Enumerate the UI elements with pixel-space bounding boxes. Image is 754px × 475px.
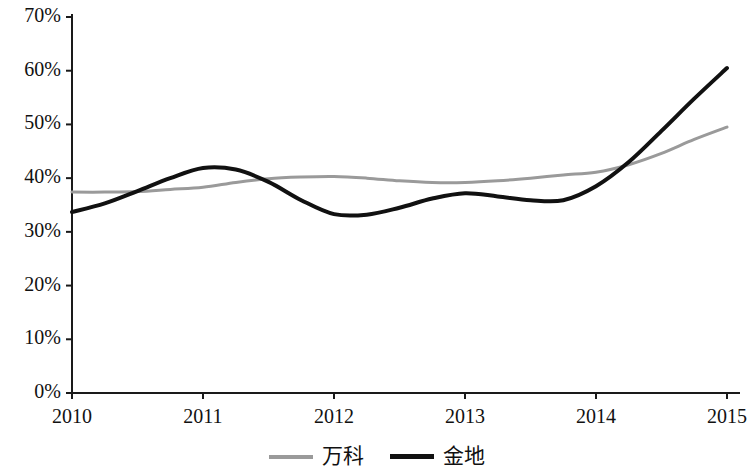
y-tick-label: 0%: [34, 380, 61, 403]
chart-legend: 万科 金地: [0, 446, 754, 467]
legend-label: 万科: [322, 446, 364, 467]
x-tick-label: 2011: [163, 405, 243, 428]
y-tick-label: 60%: [24, 58, 61, 81]
x-tick-label: 2015: [687, 405, 754, 428]
legend-label: 金地: [443, 446, 485, 467]
legend-line-swatch-icon: [390, 454, 434, 459]
y-tick-label: 70%: [24, 4, 61, 27]
y-tick-label: 10%: [24, 326, 61, 349]
data-series-group: [72, 68, 727, 216]
x-tick-label: 2014: [556, 405, 636, 428]
x-tick-label: 2013: [425, 405, 505, 428]
x-tick-label: 2010: [32, 405, 112, 428]
chart-canvas: [0, 0, 754, 475]
x-tick-label: 2012: [294, 405, 374, 428]
axis-group: [72, 14, 740, 393]
series-line-jindi: [72, 68, 727, 216]
y-tick-label: 20%: [24, 273, 61, 296]
legend-line-swatch-icon: [269, 455, 313, 459]
y-tick-label: 30%: [24, 219, 61, 242]
y-tick-label: 50%: [24, 111, 61, 134]
line-chart: 0%10%20%30%40%50%60%70% 2010201120122013…: [0, 0, 754, 475]
y-tick-label: 40%: [24, 165, 61, 188]
legend-item-jindi: 金地: [390, 446, 485, 467]
legend-item-wanke: 万科: [269, 446, 364, 467]
